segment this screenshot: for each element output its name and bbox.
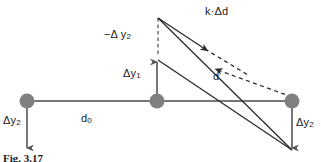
delta-y2-right-label: Δy2 [296,117,314,129]
figure-caption: Fig. 3.17 [3,152,43,162]
diagram-canvas [0,0,321,162]
delta-y2-left-label-sub: 2 [16,118,21,127]
delta-y1-label: Δy1 [123,68,141,80]
delta-y2-right-label-text: Δy [296,116,309,128]
delta-y1-label-text: Δy [123,67,136,79]
d-label: d [213,71,219,82]
k-delta-d-solid-line [158,18,205,49]
left-node [20,94,35,109]
delta-y2-left-label-text: Δy [3,114,16,126]
figure-container: k·Δd −Δ y2 Δy1 d d0 Δy2 Δy2 Fig. 3.17 [0,0,321,162]
k-delta-d-label: k·Δd [205,6,228,17]
neg-delta-y2-label-sub: 2 [127,32,132,41]
neg-delta-y2-label: −Δ y2 [104,29,131,41]
middle-node [150,94,165,109]
delta-y2-left-label: Δy2 [3,115,21,127]
d-dashed-measure-line [215,69,292,97]
d0-label-sub: 0 [87,116,92,125]
upper-diagonal-line [158,18,292,150]
delta-y2-right-label-sub: 2 [309,120,314,129]
neg-delta-y2-label-text: −Δ y [104,28,127,40]
delta-y1-label-sub: 1 [136,71,141,80]
lower-diagonal-line [158,60,292,150]
d0-label: d0 [81,113,92,125]
right-node [285,94,300,109]
